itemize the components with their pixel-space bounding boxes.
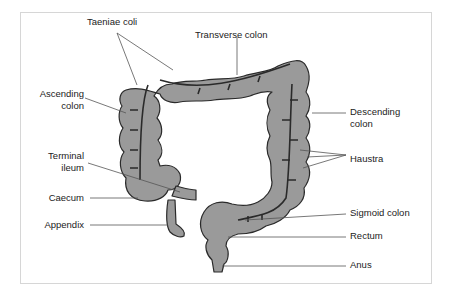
label-ascending-colon-line2: colon: [34, 100, 84, 112]
label-rectum: Rectum: [350, 230, 383, 242]
label-terminal-ileum-line2: ileum: [34, 162, 84, 174]
leader-taeniae-coli: [117, 33, 173, 85]
label-terminal-ileum-line1: Terminal: [34, 150, 84, 162]
label-transverse-colon: Transverse colon: [195, 29, 268, 41]
label-appendix: Appendix: [34, 219, 84, 231]
colon-body: [119, 61, 310, 272]
label-anus: Anus: [350, 259, 372, 271]
label-descending-colon-line2: colon: [350, 118, 373, 130]
terminal-ileum-shape: [172, 186, 196, 200]
large-intestine-shape: [119, 61, 310, 272]
label-sigmoid-colon: Sigmoid colon: [350, 207, 410, 219]
label-ascending-colon-line1: Ascending: [34, 88, 84, 100]
label-caecum: Caecum: [34, 192, 84, 204]
label-taeniae-coli: Taeniae coli: [87, 16, 137, 28]
label-descending-colon-line1: Descending: [350, 106, 400, 118]
appendix-shape: [167, 200, 185, 237]
label-haustra: Haustra: [350, 153, 383, 165]
